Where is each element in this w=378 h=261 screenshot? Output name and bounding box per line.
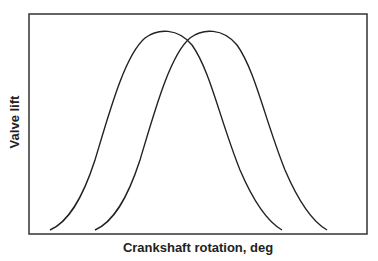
plot-frame [29, 14, 367, 234]
x-axis-label: Crankshaft rotation, deg [123, 240, 273, 255]
valve-lift-diagram: Crankshaft rotation, deg Valve lift [0, 0, 378, 261]
curve-2 [95, 31, 327, 230]
y-axis-label: Valve lift [7, 95, 22, 148]
curve-1 [50, 31, 282, 230]
